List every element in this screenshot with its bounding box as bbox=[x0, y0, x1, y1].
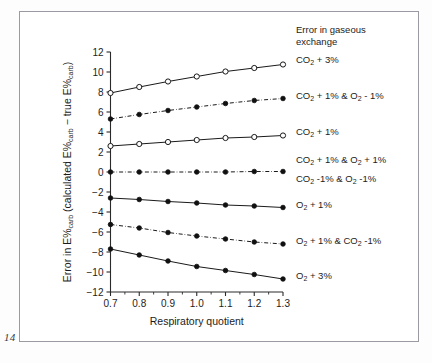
data-point bbox=[166, 108, 171, 113]
data-point bbox=[223, 170, 228, 175]
series-label: CO2 + 3% bbox=[296, 54, 339, 66]
data-point bbox=[252, 169, 257, 174]
y-tick-label: 0 bbox=[98, 167, 104, 178]
y-tick-label: −2 bbox=[92, 187, 104, 198]
data-point bbox=[166, 230, 171, 235]
data-point bbox=[194, 201, 199, 206]
y-tick-label: 2 bbox=[98, 147, 104, 158]
data-point bbox=[166, 259, 171, 264]
data-point bbox=[252, 272, 257, 277]
y-tick-label: −12 bbox=[87, 287, 104, 298]
data-point bbox=[223, 237, 228, 242]
y-tick-label: 4 bbox=[98, 127, 104, 138]
x-tick-label: 0.9 bbox=[161, 298, 175, 309]
x-tick-label: 0.7 bbox=[104, 298, 118, 309]
data-point bbox=[252, 65, 257, 70]
series-layer bbox=[108, 62, 286, 281]
x-tick-label: 1.0 bbox=[190, 298, 204, 309]
x-tick-label: 1.3 bbox=[276, 298, 290, 309]
series-labels-layer: CO2 + 3%CO2 + 1% & O2 - 1%CO2 + 1%CO2 + … bbox=[283, 54, 387, 283]
legend-title-line2: exchange bbox=[296, 36, 337, 47]
y-tick-label: 6 bbox=[98, 107, 104, 118]
data-point bbox=[223, 268, 228, 273]
data-point bbox=[137, 226, 142, 231]
data-point bbox=[108, 196, 113, 201]
y-tick-label: −10 bbox=[87, 267, 104, 278]
data-point bbox=[223, 69, 228, 74]
data-point bbox=[108, 143, 113, 148]
y-tick-label: 10 bbox=[92, 67, 104, 78]
data-point bbox=[108, 247, 113, 252]
series-label: O2 + 1% bbox=[296, 199, 332, 211]
series-label: CO2 + 1% & O2 - 1% bbox=[296, 90, 384, 102]
x-axis-title: Respiratory quotient bbox=[150, 315, 244, 327]
y-axis-title-text: Error in E%carb (calculated E%carb − tru… bbox=[61, 62, 74, 282]
x-tick-label: 0.8 bbox=[132, 298, 146, 309]
series-leader bbox=[283, 160, 292, 172]
data-point bbox=[108, 170, 113, 175]
data-point bbox=[108, 117, 113, 122]
data-point bbox=[223, 101, 228, 106]
series-label: CO2 + 1% bbox=[296, 126, 339, 138]
data-point bbox=[194, 105, 199, 110]
data-point bbox=[223, 135, 228, 140]
x-tick-label: 1.1 bbox=[219, 298, 233, 309]
data-point bbox=[108, 222, 113, 227]
axes-layer: 121086420−2−4−6−8−10−120.70.80.91.01.11.… bbox=[87, 47, 291, 310]
legend-title: Error in gaseousexchange bbox=[296, 24, 366, 47]
data-point bbox=[166, 199, 171, 204]
data-point bbox=[194, 170, 199, 175]
data-point bbox=[252, 204, 257, 209]
y-tick-label: 8 bbox=[98, 87, 104, 98]
data-point bbox=[194, 264, 199, 269]
data-point bbox=[137, 141, 142, 146]
series-label: CO2 -1% & O2 -1% bbox=[296, 173, 377, 185]
series-label: CO2 + 1% & O2 + 1% bbox=[296, 154, 387, 166]
data-point bbox=[165, 79, 170, 84]
y-axis-title: Error in E%carb (calculated E%carb − tru… bbox=[61, 62, 74, 282]
figure-root: 14 121086420−2−4−6−8−10−120.70.80.91.01.… bbox=[0, 0, 432, 363]
data-point bbox=[137, 253, 142, 258]
x-tick-label: 1.2 bbox=[247, 298, 261, 309]
data-point bbox=[165, 139, 170, 144]
series-label: O2 + 1% & CO2 -1% bbox=[296, 235, 382, 247]
series-label: O2 + 3% bbox=[296, 270, 332, 282]
data-point bbox=[223, 203, 228, 208]
data-point bbox=[252, 240, 257, 245]
data-point bbox=[137, 170, 142, 175]
y-tick-label: −8 bbox=[92, 247, 104, 258]
data-point bbox=[137, 84, 142, 89]
data-point bbox=[194, 74, 199, 79]
data-point bbox=[252, 98, 257, 103]
data-point bbox=[194, 137, 199, 142]
data-point bbox=[108, 90, 113, 95]
data-point bbox=[194, 234, 199, 239]
y-tick-label: −6 bbox=[92, 227, 104, 238]
data-point bbox=[137, 197, 142, 202]
data-point bbox=[166, 170, 171, 175]
legend-title-line1: Error in gaseous bbox=[296, 24, 366, 35]
line-chart: 121086420−2−4−6−8−10−120.70.80.91.01.11.… bbox=[0, 0, 432, 363]
data-point bbox=[137, 112, 142, 117]
y-tick-label: −4 bbox=[92, 207, 104, 218]
data-point bbox=[252, 134, 257, 139]
y-tick-label: 12 bbox=[92, 47, 104, 58]
